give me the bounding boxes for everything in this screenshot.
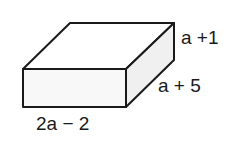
- depth-label: a + 5: [158, 76, 201, 95]
- width-label-text: 2a − 2: [36, 113, 89, 134]
- diagram-canvas: a +1 a + 5 2a − 2: [0, 0, 242, 143]
- height-label-text: a +1: [181, 27, 219, 48]
- depth-label-text: a + 5: [158, 75, 201, 96]
- prism-front-face: [23, 69, 126, 107]
- height-label: a +1: [181, 28, 219, 47]
- width-label: 2a − 2: [36, 114, 89, 133]
